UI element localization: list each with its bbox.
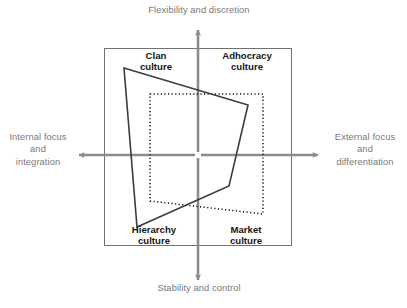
cvf-diagram: Flexibility and discretion Stability and… — [0, 0, 407, 308]
quadrant-label-market: Market culture — [206, 224, 286, 247]
axis-label-external-focus: External focus and differentiation — [325, 131, 405, 168]
axis-label-stability: Stability and control — [123, 282, 275, 294]
quadrant-label-adhocracy: Adhocracy culture — [205, 50, 289, 73]
quadrant-label-clan: Clan culture — [118, 50, 194, 73]
axis-label-internal-focus: Internal focus and integration — [2, 131, 74, 168]
axis-label-flexibility: Flexibility and discretion — [123, 4, 275, 16]
quadrant-label-hierarchy: Hierarchy culture — [113, 224, 195, 247]
current-culture-profile — [124, 68, 248, 227]
